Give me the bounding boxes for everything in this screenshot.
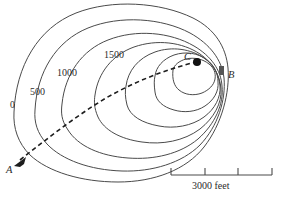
route-path-a-to-c <box>20 62 196 160</box>
contour-label-1500: 1500 <box>104 50 124 60</box>
route-arrowhead-at-a <box>14 157 26 167</box>
point-marker-b <box>219 66 224 75</box>
scale-bar <box>171 168 272 175</box>
contour-label-1000: 1000 <box>57 68 77 78</box>
contour-line-0 <box>14 4 228 182</box>
contour-label-0: 0 <box>10 101 15 111</box>
scale-bar-label: 3000 feet <box>192 181 230 191</box>
contour-label-500: 500 <box>30 87 45 97</box>
point-label-a: A <box>6 165 12 176</box>
point-label-c: C <box>184 52 191 63</box>
contour-line-2000 <box>125 49 220 127</box>
map-canvas <box>0 0 286 199</box>
contour-map-figure: 0 500 1000 1500 A B C 3000 feet <box>0 0 286 199</box>
contour-line-1000 <box>62 33 223 158</box>
point-label-b: B <box>228 70 234 81</box>
summit-point-c <box>193 58 201 66</box>
